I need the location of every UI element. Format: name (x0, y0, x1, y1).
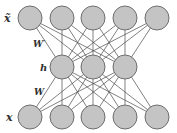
hidden-node-1 (81, 55, 105, 79)
input-node-0 (18, 105, 42, 129)
autoencoder-diagram: x̃ W′ h W x (0, 0, 177, 133)
label-x: x (5, 111, 13, 124)
output-node-4 (145, 6, 169, 30)
edge (30, 67, 125, 117)
output-node-2 (81, 6, 105, 30)
output-node-3 (113, 6, 137, 30)
output-node-1 (50, 6, 74, 30)
input-node-2 (81, 105, 105, 129)
label-w: W (34, 87, 45, 97)
input-node-1 (50, 105, 74, 129)
hidden-node-0 (50, 55, 74, 79)
label-h: h (40, 62, 47, 73)
edge (62, 18, 157, 67)
output-node-0 (18, 6, 42, 30)
hidden-node-2 (113, 55, 137, 79)
edge (62, 67, 157, 117)
input-node-3 (113, 105, 137, 129)
input-node-4 (145, 105, 169, 129)
label-w-prime: W′ (33, 39, 46, 49)
label-x-tilde: x̃ (3, 12, 11, 25)
